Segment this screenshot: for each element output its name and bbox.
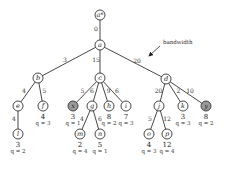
edge-weight-label: 5 [148, 115, 152, 122]
node-q-value: q = 2 [198, 120, 213, 127]
node-e: e [13, 101, 23, 111]
node-j: j [154, 101, 164, 111]
node-b: b [33, 73, 43, 83]
node-label: d [164, 75, 168, 83]
edge-a-b [38, 45, 100, 78]
edge-weight-label: 20 [155, 87, 163, 94]
edge-weight-label: 6 [115, 87, 119, 94]
edge-weight-label: 0 [94, 25, 98, 32]
node-label: h [107, 102, 111, 110]
node-label: o [147, 130, 151, 138]
node-h: h8q = 2 [101, 101, 116, 127]
node-a-star: a* [95, 10, 105, 20]
edge-weight-label: 5 [81, 87, 85, 94]
node-k: k3q = 3 [175, 101, 191, 127]
node-x: x3q = 1 [65, 101, 80, 127]
node-label: a* [96, 11, 104, 19]
edge-weight-label: 5 [43, 87, 47, 94]
node-label: n [98, 130, 102, 138]
node-n: n5q = 1 [92, 129, 107, 155]
node-q-value: q = 4 [159, 148, 175, 155]
node-q-value: q = 3 [118, 120, 134, 127]
nodes: a*abcdef4q = 3x3q = 1gh8q = 2i7q = 3jk3q… [10, 10, 213, 155]
edge-c-i [100, 78, 126, 106]
edge-weight-label: 15 [92, 56, 100, 63]
node-d: d [161, 74, 171, 84]
node-q-value: q = 1 [92, 148, 107, 155]
node-p: p12q = 4 [159, 129, 175, 155]
bandwidth-annotation: bandwidth [149, 39, 193, 56]
edge-weight-label: 4 [80, 115, 84, 122]
node-f: f4q = 3 [35, 101, 51, 127]
node-c: c [95, 73, 105, 83]
edge-weight-label: 20 [133, 57, 141, 64]
edge-weight-label: 3 [63, 56, 67, 63]
node-label: y [203, 102, 208, 110]
node-l: l3q = 2 [10, 129, 25, 155]
node-label: k [181, 102, 185, 110]
node-label: c [98, 74, 102, 82]
tree-diagram: 03152045569620210446512 a*abcdef4q = 3x3… [0, 0, 226, 170]
node-y: y8q = 2 [198, 101, 213, 127]
node-label: e [16, 102, 20, 110]
node-q-value: q = 3 [175, 120, 191, 127]
edge-weight-label: 4 [22, 87, 26, 94]
node-m: m2q = 4 [72, 129, 88, 155]
bandwidth-label: bandwidth [163, 39, 193, 45]
node-q-value: q = 2 [101, 120, 116, 127]
node-q-value: q = 2 [10, 148, 25, 155]
node-q-value: q = 3 [35, 120, 51, 127]
node-g: g [87, 101, 97, 111]
edge-weight-label: 6 [90, 87, 94, 94]
node-q-value: q = 3 [141, 148, 157, 155]
node-label: x [71, 102, 75, 110]
arrow-icon [149, 46, 160, 56]
node-q-value: q = 4 [72, 148, 88, 155]
node-i: i7q = 3 [118, 101, 134, 127]
node-label: b [36, 74, 40, 82]
node-label: m [77, 130, 83, 138]
node-q-value: q = 1 [65, 120, 80, 127]
node-label: l [17, 130, 19, 138]
node-label: i [125, 102, 127, 110]
node-label: g [90, 102, 94, 110]
node-label: a [98, 41, 102, 49]
node-a: a [95, 40, 105, 50]
edge-weight-label: 4 [12, 115, 16, 122]
edge-weight-label: 10 [186, 87, 194, 94]
edge-weight-label: 12 [163, 115, 171, 122]
node-o: o4q = 3 [141, 129, 157, 155]
